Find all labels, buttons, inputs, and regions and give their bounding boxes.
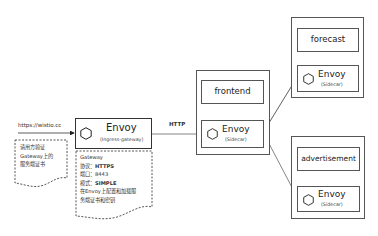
frontend-pod: frontend Envoy (Sidecar) [196,70,270,155]
frontend-envoy-box: Envoy (Sidecar) [201,120,264,148]
envoy-hexagon-icon [80,127,92,140]
ingress-envoy-subtitle: (Ingress-gateway) [100,137,143,142]
forecast-envoy-subtitle: (Sidecar) [321,82,343,87]
ingress-note-protocol: 协议：HTTPS [80,162,136,171]
advertisement-label: advertisement [298,154,359,163]
advertisement-envoy-box: Envoy (Sidecar) [297,186,360,212]
advertisement-pod: advertisement Envoy (Sidecar) [291,136,365,219]
forecast-pod: forecast Envoy (Sidecar) [291,17,364,98]
client-note-line: Gateway上的 [20,152,53,161]
forecast-envoy-title: Envoy [318,69,346,79]
envoy-hexagon-icon [303,194,314,206]
advertisement-envoy-title: Envoy [318,189,346,199]
ingress-note-line: 在Envoy上配置和加载服 [80,187,136,196]
frontend-envoy-title: Envoy [222,124,250,134]
ingress-note: Gateway 协议：HTTPS 端口：8443 模式：SIMPLE 在Envo… [80,153,136,205]
frontend-service-box: frontend [201,80,264,104]
ingress-note-line: Gateway [80,153,136,162]
forecast-envoy-box: Envoy (Sidecar) [297,65,359,92]
advertisement-envoy-subtitle: (Sidecar) [321,202,343,207]
ingress-gateway-box: Envoy (Ingress-gateway) [75,118,152,149]
client-note: 请用方验证 Gateway上的 服务端证书 [20,143,53,169]
advertisement-service-box: advertisement [297,147,360,171]
istio-ingress-diagram: https://wistio.cc 请用方验证 Gateway上的 服务端证书 … [0,0,378,236]
client-note-line: 服务端证书 [20,160,53,169]
forecast-label: forecast [298,34,358,44]
frontend-envoy-subtitle: (Sidecar) [225,137,247,142]
ingress-note-port: 端口：8443 [80,170,136,179]
envoy-hexagon-icon [207,128,218,140]
frontend-label: frontend [202,86,263,96]
ingress-note-mode: 模式：SIMPLE [80,179,136,188]
ingress-envoy-title: Envoy [106,122,137,133]
client-note-line: 请用方验证 [20,143,53,152]
forecast-service-box: forecast [297,28,359,52]
ingress-note-line: 务端证书和密钥 [80,196,136,205]
client-url: https://wistio.cc [18,122,61,128]
http-edge-label: HTTP [169,121,185,127]
envoy-hexagon-icon [303,73,314,85]
